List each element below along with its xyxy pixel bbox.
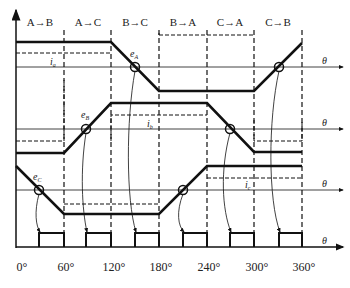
svg-text:eC: eC — [33, 171, 42, 183]
svg-text:eB: eB — [81, 109, 89, 121]
svg-text:θ: θ — [322, 117, 327, 128]
svg-text:θ: θ — [322, 235, 327, 246]
svg-text:ic: ic — [245, 179, 251, 191]
svg-text:0°: 0° — [17, 260, 28, 274]
svg-text:C→B: C→B — [265, 16, 291, 28]
svg-text:θ: θ — [322, 178, 327, 189]
commutation-pulses — [39, 233, 302, 247]
svg-text:C→A: C→A — [217, 16, 243, 28]
svg-text:240°: 240° — [198, 260, 221, 274]
svg-text:ia: ia — [50, 56, 56, 68]
svg-text:120°: 120° — [103, 260, 126, 274]
svg-text:B→A: B→A — [170, 16, 196, 28]
svg-text:eA: eA — [130, 48, 138, 60]
svg-text:300°: 300° — [246, 260, 269, 274]
svg-text:A→C: A→C — [75, 16, 101, 28]
delay-arrows — [36, 71, 280, 232]
svg-text:180°: 180° — [150, 260, 173, 274]
svg-text:360°: 360° — [293, 260, 316, 274]
x-tick-labels: 0° 60° 120° 180° 240° 300° 360° — [17, 260, 316, 274]
sector-labels: A→B A→C B→C B→A C→A C→B — [27, 16, 291, 28]
phase-b-current — [16, 80, 64, 141]
svg-text:θ: θ — [322, 55, 327, 66]
svg-text:B→C: B→C — [122, 16, 148, 28]
commutation-diagram: A→B A→C B→C B→A C→A C→B θ ia eA θ ib eB … — [0, 0, 350, 288]
svg-text:ib: ib — [147, 118, 153, 130]
svg-text:60°: 60° — [58, 260, 75, 274]
phase-a: θ ia eA — [16, 33, 343, 91]
svg-text:A→B: A→B — [27, 16, 53, 28]
